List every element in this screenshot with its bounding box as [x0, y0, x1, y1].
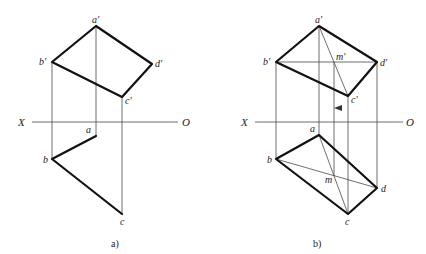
- label-d: d: [381, 183, 387, 194]
- label-a: a: [86, 124, 91, 135]
- label-b: b: [267, 154, 272, 165]
- figure-b: a′ b′ m′ d′ c′ X O a b m d c b): [240, 14, 414, 250]
- label-c: c: [120, 216, 125, 227]
- label-c-prime: c′: [125, 95, 132, 106]
- label-o-axis: O: [182, 116, 190, 128]
- label-c-prime: c′: [351, 94, 358, 105]
- label-b-prime: b′: [263, 56, 271, 67]
- projection-drawing: a′ b′ d′ c′ X O a b c a) a′ b′ m′: [0, 0, 426, 254]
- label-d-prime: d′: [380, 57, 388, 68]
- label-x-axis: X: [240, 116, 249, 128]
- label-b-prime: b′: [39, 56, 47, 67]
- front-view-plane: [276, 26, 377, 96]
- front-view-plane: [52, 26, 152, 97]
- caption-a: a): [111, 238, 119, 250]
- label-b: b: [43, 154, 48, 165]
- plan-view-lines: [52, 136, 122, 214]
- caption-b: b): [313, 238, 321, 250]
- label-m-prime: m′: [336, 51, 346, 62]
- label-x-axis: X: [17, 116, 26, 128]
- label-o-axis: O: [406, 116, 414, 128]
- label-a-prime: a′: [315, 14, 323, 25]
- label-a-prime: a′: [92, 14, 100, 25]
- label-d-prime: d′: [155, 58, 163, 69]
- label-a: a: [310, 123, 315, 134]
- figure-a: a′ b′ d′ c′ X O a b c a): [17, 14, 190, 250]
- label-m: m: [325, 174, 332, 185]
- label-c: c: [345, 216, 350, 227]
